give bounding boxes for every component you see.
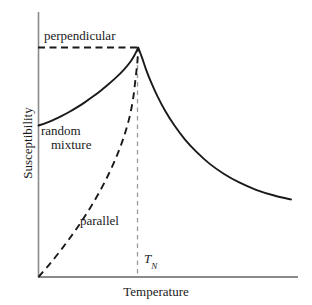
x-axis-label: Temperature (0, 285, 312, 299)
susceptibility-vs-temperature-figure: perpendicular random mixture parallel TN… (0, 0, 312, 305)
annotation-random-mixture: random mixture (41, 124, 91, 152)
y-axis-label: Susceptibility (21, 63, 35, 223)
annotation-perpendicular: perpendicular (44, 29, 115, 43)
annotation-neel-temperature: TN (144, 252, 157, 269)
annotation-random-mixture-line2: mixture (41, 138, 91, 152)
annotation-random-mixture-line1: random (41, 123, 81, 138)
neel-temperature-subscript: N (151, 261, 157, 271)
annotation-parallel: parallel (80, 214, 119, 228)
curve-parallel (39, 48, 139, 278)
